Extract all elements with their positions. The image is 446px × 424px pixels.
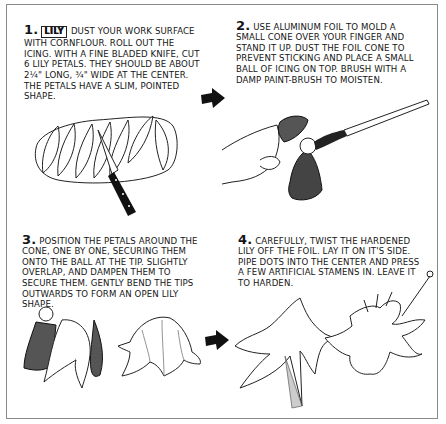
step-2-illustration xyxy=(222,100,432,210)
step-4-text: Carefully, twist the hardened lily off t… xyxy=(238,236,419,288)
step-3-text-block: 3.Position the petals around the cone, o… xyxy=(22,224,202,310)
step-2-number: 2. xyxy=(236,18,250,33)
step-3-illustration xyxy=(22,300,202,400)
lily-badge: LILY xyxy=(41,26,67,39)
right-arrow-icon xyxy=(204,330,230,350)
step-1-illustration xyxy=(28,108,178,218)
step-1-number: 1. xyxy=(24,22,38,37)
step-4-illustration xyxy=(230,296,430,411)
step-2-text: Use aluminum foil to mold a small cone o… xyxy=(236,22,414,85)
step-4-text-block: 4.Carefully, twist the hardened lily off… xyxy=(238,224,428,289)
step-1-text-block: 1.LILYDust your work surface with cornfl… xyxy=(24,14,202,102)
step-4-number: 4. xyxy=(238,232,252,247)
step-3-number: 3. xyxy=(22,232,36,247)
step-2-text-block: 2.Use aluminum foil to mold a small cone… xyxy=(236,10,416,85)
step-3-text: Position the petals around the cone, one… xyxy=(22,236,198,310)
